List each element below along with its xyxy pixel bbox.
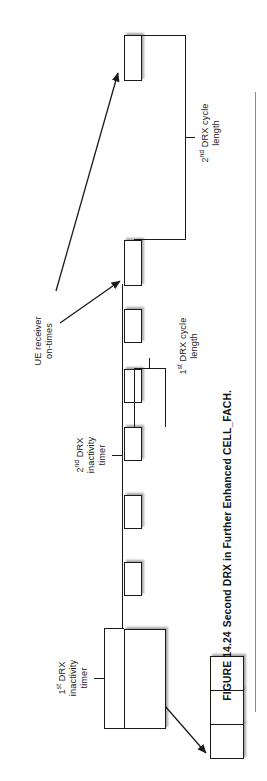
first-inactivity-line3: timer (79, 668, 89, 689)
first-inactivity-line2: inactivity (68, 660, 78, 696)
ue-receiver-line1: UE receiver (33, 316, 43, 365)
second-cycle-bracket-right (134, 35, 186, 36)
on-time-pulse-4 (124, 369, 142, 403)
first-cycle-bracket-arm-bottom (165, 368, 166, 427)
figure-caption: FIGURE 14.24Second DRX in Further Enhanc… (222, 390, 233, 781)
first-cycle-line2: length (189, 333, 199, 359)
on-time-pulse-1 (124, 562, 142, 596)
figure-caption-number: FIGURE 14.24 (222, 631, 233, 700)
second-cycle-bracket-left (134, 239, 186, 240)
second-inactivity-bracket-tick (112, 455, 122, 456)
first-inactivity-bracket-left (104, 728, 124, 729)
second-inactivity-line2: inactivity (86, 437, 96, 473)
first-inactivity-line1: 1st DRX (57, 662, 67, 695)
second-drx-inactivity-timer-label: 2nd DRX inactivity timer (75, 415, 108, 495)
second-cycle-line1: 2nd DRX cycle (200, 104, 210, 163)
first-inactivity-bracket-top (104, 629, 105, 729)
ue-receiver-pointer-arrows (56, 11, 136, 341)
figure-caption-text: Second DRX in Further Enhanced CELL_FACH… (222, 390, 233, 627)
ue-receiver-line2: on-times (44, 323, 54, 359)
first-cycle-ordinal: st (176, 364, 183, 369)
first-inactivity-ordinal: st (55, 684, 62, 689)
on-time-long-box (124, 629, 166, 729)
second-inactivity-line3: timer (97, 445, 107, 466)
on-time-pulse-3 (124, 427, 142, 461)
ue-receiver-on-times-label: UE receiver on-times (33, 286, 55, 396)
first-cycle-line1: 1st DRX cycle (178, 318, 188, 375)
first-drx-inactivity-timer-label: 1st DRX inactivity timer (57, 638, 90, 718)
second-inactivity-line1: 2nd DRX (75, 438, 85, 473)
second-cycle-line2: length (211, 120, 221, 146)
second-cycle-bracket-tick (185, 137, 195, 138)
first-drx-cycle-length-label: 1st DRX cycle length (178, 301, 200, 391)
first-inactivity-bracket-right (104, 628, 124, 629)
second-inactivity-ordinal: nd (73, 460, 80, 467)
on-time-pulse-2 (124, 495, 142, 529)
first-inactivity-bracket-tick (94, 678, 104, 679)
first-cycle-bracket-tick (149, 358, 150, 369)
first-cycle-bracket-arm-top (134, 368, 135, 427)
second-drx-cycle-length-label: 2nd DRX cycle length (200, 88, 222, 178)
second-cycle-ordinal: nd (198, 150, 205, 157)
